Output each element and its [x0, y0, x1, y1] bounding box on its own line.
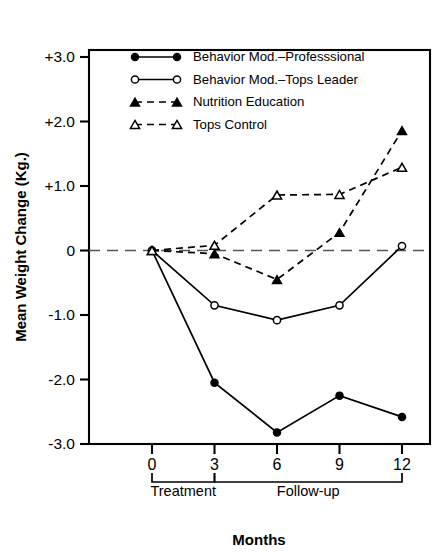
- bracket-label: Treatment: [150, 483, 216, 499]
- data-series-layer: [147, 127, 406, 436]
- x-tick-label: 6: [273, 456, 282, 473]
- open-circle-marker: [273, 317, 280, 324]
- x-axis-ticks: 036912: [148, 444, 411, 473]
- legend-label: Nutrition Education: [193, 94, 304, 109]
- y-tick-label: +3.0: [44, 48, 75, 65]
- period-brackets: TreatmentFollow-up: [150, 473, 402, 499]
- filled-circle-marker: [336, 392, 343, 399]
- y-tick-label: -1.0: [48, 306, 75, 323]
- y-tick-label: +1.0: [44, 177, 75, 194]
- filled-circle-marker: [173, 53, 180, 60]
- bracket-line: [215, 473, 403, 482]
- legend-item-3: Tops Control: [130, 117, 267, 132]
- filled-circle-marker: [131, 53, 138, 60]
- y-axis-ticks: +3.0+2.0+1.00-1.0-2.0-3.0: [44, 48, 89, 452]
- x-tick-label: 0: [148, 456, 157, 473]
- filled-circle-marker: [211, 379, 218, 386]
- y-tick-label: -3.0: [48, 435, 75, 452]
- open-circle-marker: [173, 76, 180, 83]
- open-circle-marker: [211, 302, 218, 309]
- bracket-line: [152, 473, 215, 482]
- bracket-1: Follow-up: [215, 473, 403, 499]
- filled-triangle-marker: [335, 228, 344, 236]
- bracket-0: Treatment: [150, 473, 216, 499]
- open-circle-marker: [398, 242, 405, 249]
- bracket-label: Follow-up: [277, 483, 340, 499]
- y-tick-label: 0: [66, 242, 75, 259]
- open-circle-marker: [336, 302, 343, 309]
- series-line: [152, 131, 402, 280]
- legend-item-2: Nutrition Education: [130, 94, 304, 109]
- weight-change-line-chart: +3.0+2.0+1.00-1.0-2.0-3.0 036912 Behavio…: [0, 0, 447, 552]
- legend-item-0: Behavior Mod.–Professsional: [131, 49, 364, 64]
- legend-label: Behavior Mod.–Professsional: [193, 49, 365, 64]
- x-tick-label: 3: [210, 456, 219, 473]
- open-triangle-marker: [397, 163, 406, 171]
- filled-triangle-marker: [397, 127, 406, 135]
- series-line: [152, 167, 402, 250]
- chart-svg: +3.0+2.0+1.00-1.0-2.0-3.0 036912 Behavio…: [0, 0, 447, 552]
- legend-label: Tops Control: [193, 117, 267, 132]
- series-2: [147, 127, 406, 284]
- y-tick-label: +2.0: [44, 113, 75, 130]
- chart-legend: Behavior Mod.–ProfesssionalBehavior Mod.…: [130, 49, 364, 132]
- open-triangle-marker: [335, 190, 344, 198]
- y-axis-title: Mean Weight Change (Kg.): [12, 152, 29, 342]
- filled-circle-marker: [398, 413, 405, 420]
- legend-label: Behavior Mod.–Tops Leader: [193, 72, 359, 87]
- x-axis-title: Months: [232, 531, 285, 548]
- x-tick-label: 9: [335, 456, 344, 473]
- legend-item-1: Behavior Mod.–Tops Leader: [131, 72, 358, 87]
- x-tick-label: 12: [393, 456, 411, 473]
- filled-circle-marker: [273, 429, 280, 436]
- y-tick-label: -2.0: [48, 371, 75, 388]
- open-circle-marker: [131, 76, 138, 83]
- series-3: [147, 163, 406, 254]
